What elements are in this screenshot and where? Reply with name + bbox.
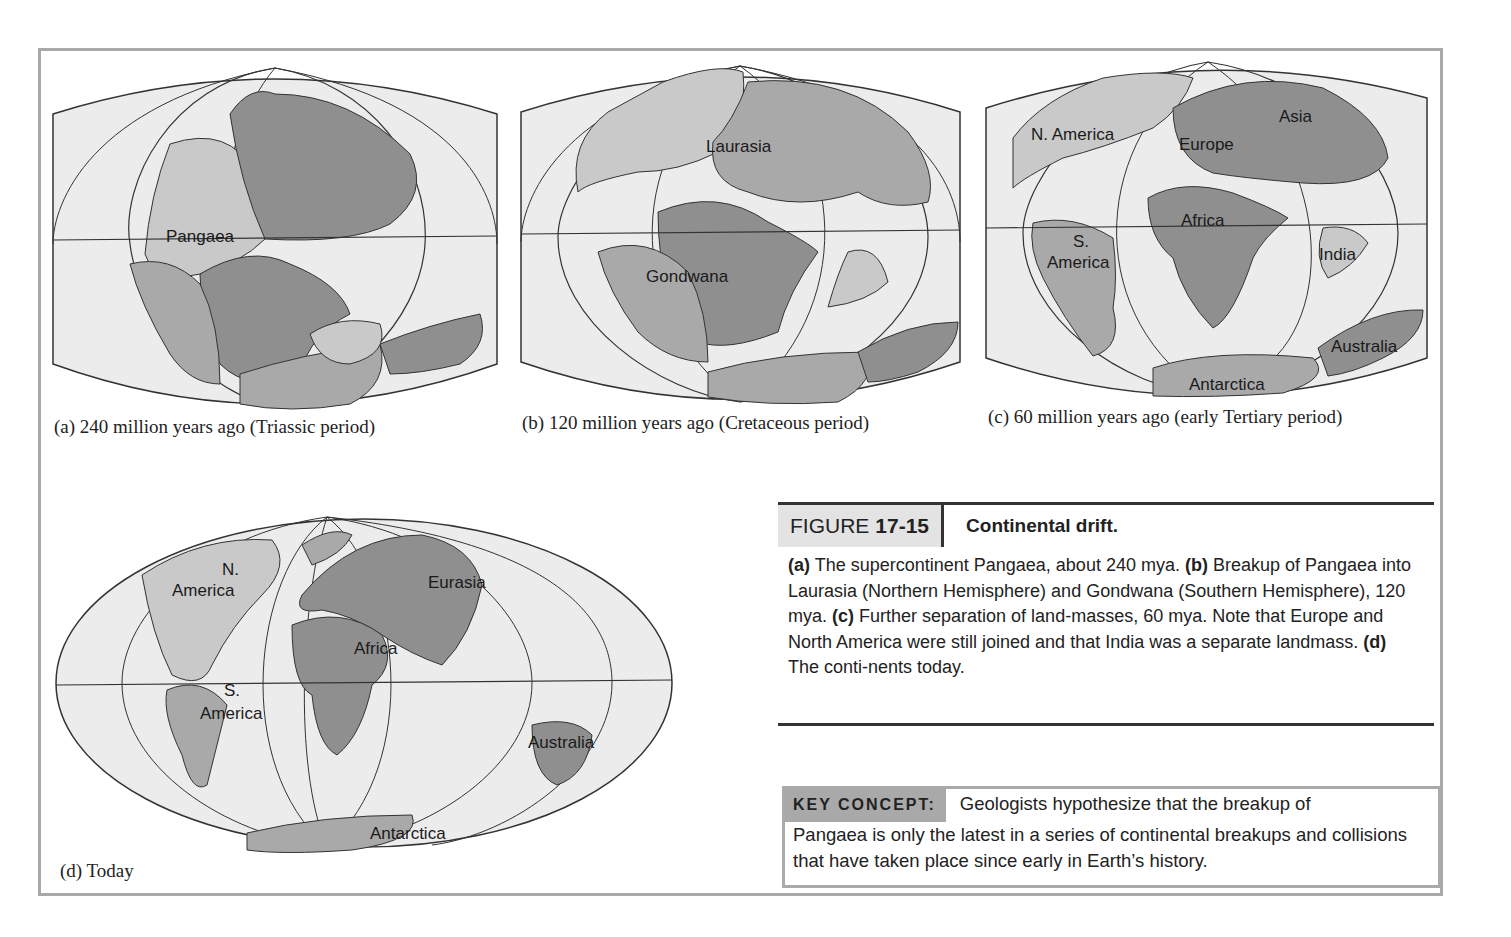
- marker-a: (a): [788, 555, 810, 575]
- label-n: N.: [222, 560, 239, 579]
- map-today: N. America Eurasia Africa S. America Aus…: [52, 515, 677, 855]
- caption-b: (b) 120 million years ago (Cretaceous pe…: [522, 412, 869, 434]
- label-gondwana: Gondwana: [646, 267, 729, 286]
- label-s-today: S.: [224, 681, 240, 700]
- caption-d: (d) Today: [60, 860, 134, 882]
- label-australia: Australia: [1331, 337, 1398, 356]
- label-africa-today: Africa: [354, 639, 398, 658]
- desc-c: Further separation of land-masses, 60 my…: [788, 606, 1383, 652]
- label-india: India: [1319, 245, 1356, 264]
- figure-number: FIGURE17-15: [778, 505, 944, 547]
- map-panel-b: Laurasia Gondwana: [518, 62, 963, 407]
- key-concept-line1: Geologists hypothesize that the breakup …: [960, 793, 1311, 814]
- figure-title: Continental drift.: [944, 515, 1118, 537]
- figure-header: FIGURE17-15 Continental drift.: [778, 505, 1118, 547]
- label-pangaea: Pangaea: [166, 227, 235, 246]
- caption-c: (c) 60 million years ago (early Tertiary…: [988, 406, 1342, 428]
- label-asia: Asia: [1279, 107, 1313, 126]
- caption-a: (a) 240 million years ago (Triassic peri…: [54, 416, 375, 438]
- key-concept-text: Pangaea is only the latest in a series o…: [785, 822, 1425, 874]
- map-panel-a: Pangaea: [50, 64, 500, 414]
- label-n-america: N. America: [1031, 125, 1115, 144]
- marker-c: (c): [832, 606, 854, 626]
- label-laurasia: Laurasia: [706, 137, 772, 156]
- label-america: America: [1047, 253, 1110, 272]
- key-concept-box: KEY CONCEPT:Geologists hypothesize that …: [782, 786, 1441, 888]
- map-panel-c: N. America Europe Asia Africa S. America…: [983, 58, 1430, 400]
- figure-number-value: 17-15: [875, 514, 929, 538]
- map-tertiary: N. America Europe Asia Africa S. America…: [983, 58, 1430, 400]
- label-america-south: America: [200, 704, 263, 723]
- marker-b: (b): [1185, 555, 1208, 575]
- figure-prefix: FIGURE: [790, 514, 869, 538]
- desc-a: The supercontinent Pangaea, about 240 my…: [810, 555, 1185, 575]
- label-africa: Africa: [1181, 211, 1225, 230]
- figure-legend: FIGURE17-15 Continental drift. (a) The s…: [778, 502, 1434, 726]
- label-europe: Europe: [1179, 135, 1234, 154]
- label-eurasia: Eurasia: [428, 573, 486, 592]
- label-america-north: America: [172, 581, 235, 600]
- desc-d: The conti-nents today.: [788, 657, 965, 677]
- map-panel-d: N. America Eurasia Africa S. America Aus…: [52, 515, 677, 855]
- map-cretaceous: Laurasia Gondwana: [518, 62, 963, 407]
- label-s: S.: [1073, 232, 1089, 251]
- marker-d: (d): [1363, 632, 1386, 652]
- label-antarctica-today: Antarctica: [370, 824, 446, 843]
- label-antarctica: Antarctica: [1189, 375, 1265, 394]
- label-australia-today: Australia: [528, 733, 595, 752]
- key-concept-label: KEY CONCEPT:: [785, 789, 946, 822]
- figure-description: (a) The supercontinent Pangaea, about 24…: [788, 553, 1418, 681]
- map-triassic: Pangaea: [50, 64, 500, 414]
